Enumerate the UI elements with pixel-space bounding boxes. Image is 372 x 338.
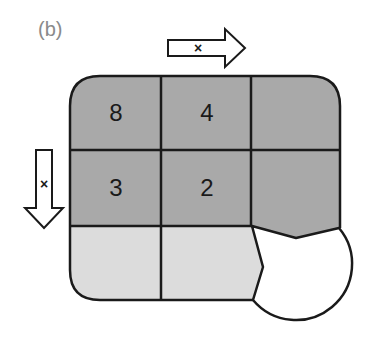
right-arrow-icon: × xyxy=(168,29,245,67)
cell-r1c1: 2 xyxy=(200,174,213,201)
cell-r0c1: 4 xyxy=(200,99,213,126)
down-arrow-icon: × xyxy=(25,150,63,228)
light-region xyxy=(70,226,263,300)
cell-r1c0: 3 xyxy=(109,174,122,201)
grid-diagram: 8 4 3 2 × × xyxy=(0,0,372,338)
arrow-mark-down: × xyxy=(40,176,48,192)
circle-cutout xyxy=(252,226,352,320)
cell-r0c0: 8 xyxy=(109,99,122,126)
arrow-mark-right: × xyxy=(194,40,202,56)
